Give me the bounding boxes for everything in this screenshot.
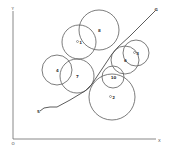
obstacle-group: 814736102 <box>42 10 149 120</box>
obstacle-center-marker <box>110 96 112 98</box>
obstacle-label: 2 <box>112 95 115 100</box>
origin-label: O <box>12 141 15 146</box>
obstacle-label: 6 <box>124 58 127 63</box>
obstacle-label: 4 <box>56 68 59 73</box>
obstacle-center-marker <box>134 52 136 54</box>
obstacle-label: 10 <box>111 75 117 80</box>
planned-path <box>40 11 155 111</box>
y-axis-label: Y <box>11 6 15 11</box>
x-axis-label: X <box>158 138 161 143</box>
obstacle-label: 7 <box>76 74 79 79</box>
obstacle-center-marker <box>77 41 79 43</box>
path-planning-diagram: Y X O 814736102 S G <box>0 0 169 150</box>
obstacle-label: 1 <box>79 40 82 45</box>
goal-label: G <box>155 7 158 12</box>
start-label: S <box>37 109 40 114</box>
obstacle-label: 8 <box>98 28 101 33</box>
